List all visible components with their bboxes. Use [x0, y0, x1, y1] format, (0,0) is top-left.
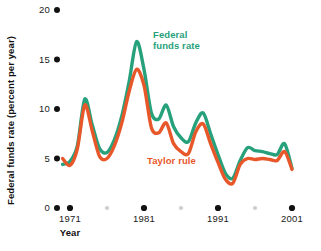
x-tick-label: 1981	[133, 213, 155, 224]
x-tick-dot-minor	[179, 206, 183, 210]
y-tick-label: 20	[39, 4, 50, 15]
x-tick-dot-minor	[253, 206, 257, 210]
y-tick-label: 10	[39, 103, 50, 114]
x-tick-dot	[141, 205, 147, 211]
x-tick-label: 1991	[207, 213, 229, 224]
chart-container: 05101520 1971198119912001 Federalfunds r…	[0, 0, 321, 251]
y-tick-dot	[54, 106, 60, 112]
series-line	[63, 69, 292, 184]
y-tick-dot	[54, 7, 60, 13]
y-tick-label: 15	[39, 54, 50, 65]
x-tick-label: 2001	[281, 213, 303, 224]
series-annotation: Taylor rule	[147, 155, 196, 166]
x-tick-dot	[289, 205, 295, 211]
x-axis-title: Year	[60, 227, 81, 238]
x-tick-dot	[67, 205, 73, 211]
y-tick-dot	[54, 57, 60, 63]
y-axis-title: Federal funds rate (percent per year)	[5, 36, 16, 205]
y-tick-label: 5	[45, 153, 50, 164]
y-tick-label: 0	[45, 202, 50, 213]
x-tick-dot-minor	[105, 206, 109, 210]
x-axis-ticks: 1971198119912001	[59, 205, 303, 224]
y-tick-dot	[54, 205, 60, 211]
series-annotation: Federalfunds rate	[153, 29, 200, 51]
y-tick-dot	[54, 156, 60, 162]
line-chart: 05101520 1971198119912001 Federalfunds r…	[0, 0, 321, 251]
y-axis-ticks: 05101520	[39, 4, 60, 213]
x-tick-label: 1971	[59, 213, 81, 224]
x-tick-dot	[215, 205, 221, 211]
